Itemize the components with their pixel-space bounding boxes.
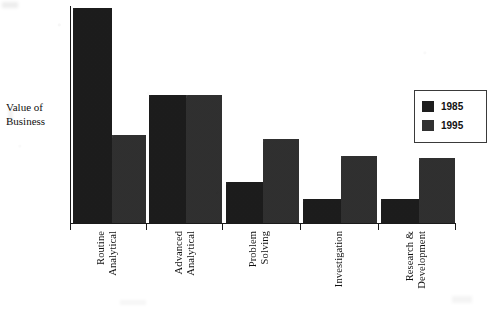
bar-advanced-analytical-1995	[186, 95, 222, 223]
legend-item-1995: 1995	[422, 116, 486, 135]
bar-advanced-analytical-1985	[149, 95, 186, 223]
category-label-line: Routine	[95, 231, 106, 265]
category-label-investigation: Investigation	[327, 231, 349, 311]
bar-chart: Value of Business Routine Analytical Adv…	[0, 0, 494, 311]
legend-label-1995: 1995	[441, 120, 463, 131]
axis-tick	[222, 223, 223, 230]
category-label-line: Advanced	[173, 231, 184, 274]
bar-investigation-1995	[341, 156, 377, 223]
category-label-line: Analytical	[185, 231, 196, 276]
axis-tick	[378, 223, 379, 230]
category-axis-line	[70, 223, 456, 224]
value-axis-line	[70, 6, 71, 224]
bar-research-development-1995	[419, 158, 455, 223]
category-label-problem-solving: Problem Solving	[236, 231, 280, 311]
axis-tick	[300, 223, 301, 230]
chart-legend: 1985 1995	[414, 90, 487, 143]
bar-problem-solving-1985	[226, 182, 263, 223]
category-label-research-development: Research & Development	[392, 231, 438, 311]
y-axis-title-line-1: Value of	[6, 100, 68, 114]
legend-label-1985: 1985	[441, 101, 463, 112]
category-label-line: Analytical	[107, 231, 118, 276]
bar-investigation-1985	[303, 199, 341, 223]
scan-smudge	[2, 2, 18, 8]
legend-swatch-icon-1995	[422, 120, 434, 131]
axis-tick	[455, 223, 456, 230]
y-axis-title-line-2: Business	[6, 114, 68, 128]
axis-tick	[146, 223, 147, 230]
category-label-line: Development	[416, 231, 427, 289]
bar-research-development-1985	[381, 199, 419, 223]
category-label-line: Investigation	[333, 231, 344, 287]
legend-swatch-icon-1985	[422, 101, 434, 112]
category-label-routine-analytical: Routine Analytical	[84, 231, 128, 311]
legend-item-1985: 1985	[422, 97, 486, 116]
category-label-line: Research &	[404, 231, 415, 281]
bar-routine-analytical-1985	[73, 8, 112, 223]
category-label-advanced-analytical: Advanced Analytical	[161, 231, 207, 311]
axis-tick	[70, 223, 71, 230]
bar-routine-analytical-1995	[112, 135, 146, 223]
bar-problem-solving-1995	[263, 139, 299, 223]
category-label-line: Problem	[247, 231, 258, 267]
scan-smudge	[452, 296, 472, 303]
y-axis-title: Value of Business	[6, 100, 68, 128]
category-label-line: Solving	[259, 231, 270, 264]
